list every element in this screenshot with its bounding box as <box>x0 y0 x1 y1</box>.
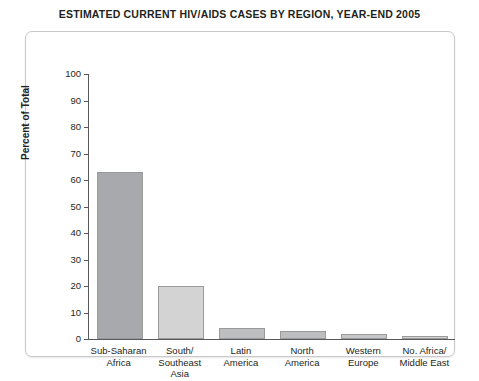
y-tick-label: 40 <box>55 228 81 238</box>
y-tick-mark <box>84 260 88 261</box>
y-tick-label: 30 <box>55 255 81 265</box>
plot-area <box>89 74 455 339</box>
bar <box>280 331 326 339</box>
y-tick-label: 80 <box>55 122 81 132</box>
y-tick-mark <box>84 339 88 340</box>
bar <box>97 172 143 339</box>
y-tick-mark <box>84 127 88 128</box>
y-tick-mark <box>84 74 88 75</box>
chart-title: ESTIMATED CURRENT HIV/AIDS CASES BY REGI… <box>0 8 479 20</box>
y-tick-mark <box>84 313 88 314</box>
bar <box>158 286 204 339</box>
bar <box>219 328 265 339</box>
y-tick-mark <box>84 180 88 181</box>
y-tick-label: 60 <box>55 175 81 185</box>
y-tick-label: 90 <box>55 96 81 106</box>
y-tick-mark <box>84 207 88 208</box>
y-tick-label: 100 <box>55 69 81 79</box>
y-tick-mark <box>84 154 88 155</box>
y-axis-label: Percent of Total <box>20 85 31 160</box>
y-tick-mark <box>84 286 88 287</box>
chart-figure: ESTIMATED CURRENT HIV/AIDS CASES BY REGI… <box>0 0 479 381</box>
x-tick-label: No. Africa/ Middle East <box>385 345 463 368</box>
bar <box>402 336 448 339</box>
y-tick-label: 50 <box>55 202 81 212</box>
bar <box>341 334 387 339</box>
y-tick-label: 10 <box>55 308 81 318</box>
y-tick-label: 70 <box>55 149 81 159</box>
plot-card: Percent of Total 0102030405060708090100 … <box>25 31 455 357</box>
x-axis-line <box>88 339 455 340</box>
y-tick-label: 0 <box>55 334 81 344</box>
y-tick-label: 20 <box>55 281 81 291</box>
y-tick-mark <box>84 101 88 102</box>
y-tick-mark <box>84 233 88 234</box>
